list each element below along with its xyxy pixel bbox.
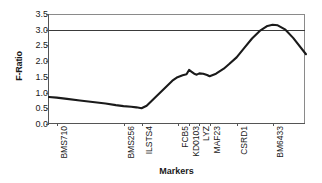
y-axis-tick bbox=[46, 45, 49, 46]
y-axis-tick bbox=[46, 61, 49, 62]
x-tick-label-fcb5: FCB5 bbox=[181, 126, 190, 148]
x-axis-tick-labels: BMS710BMS256ILSTS4FCB5KD0103LYZMAF23CSRD… bbox=[48, 126, 305, 168]
y-axis-tick bbox=[46, 108, 49, 109]
x-tick-label-bms710: BMS710 bbox=[60, 126, 69, 159]
x-tick-label-lyz: LYZ bbox=[202, 126, 211, 141]
x-tick-label-kd0103: KD0103 bbox=[192, 126, 201, 157]
x-axis-title: Markers bbox=[48, 166, 305, 176]
x-tick-label-maf23: MAF23 bbox=[213, 126, 222, 153]
x-tick-label-ilsts4: ILSTS4 bbox=[145, 126, 154, 154]
x-tick-label-bm6433: BM6433 bbox=[276, 126, 285, 158]
x-tick-label-bms256: BMS256 bbox=[127, 126, 136, 159]
y-axis-tick bbox=[46, 93, 49, 94]
y-axis-tick bbox=[46, 14, 49, 15]
y-axis-tick bbox=[46, 124, 49, 125]
x-tick-label-csrd1: CSRD1 bbox=[240, 126, 249, 155]
curve-polyline bbox=[49, 25, 306, 109]
y-axis-tick bbox=[46, 77, 49, 78]
f-ratio-line-chart: F-Ratio 0.00.51.01.52.02.53.03.5 BMS710B… bbox=[0, 0, 322, 183]
y-axis-title-text: F-Ratio bbox=[14, 36, 24, 96]
y-axis-tick bbox=[46, 30, 49, 31]
f-ratio-curve bbox=[49, 14, 306, 124]
y-axis-tick-labels: 0.00.51.01.52.02.53.03.5 bbox=[26, 8, 48, 130]
plot-area bbox=[48, 14, 305, 124]
